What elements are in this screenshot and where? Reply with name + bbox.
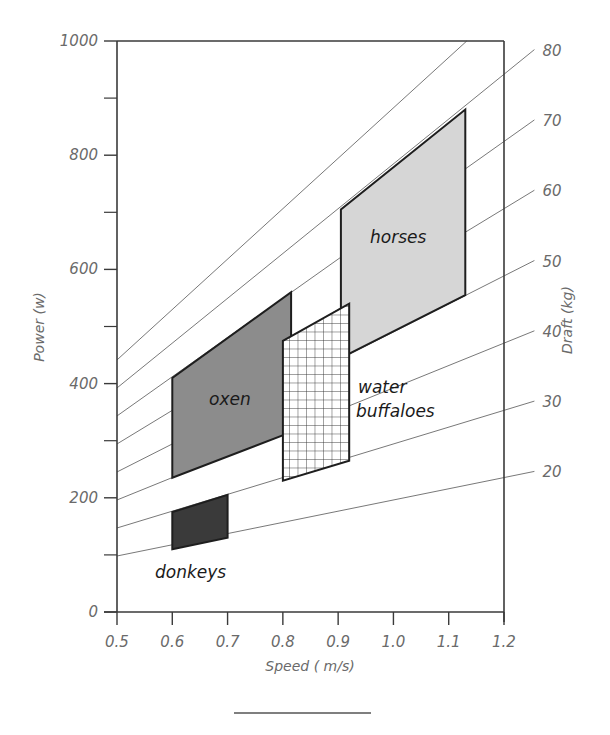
region-donkeys: [172, 495, 227, 549]
draft-label-60: 60: [542, 182, 561, 200]
x-axis-title: Speed ( m/s): [265, 658, 354, 674]
y2-axis-title: Draft (kg): [559, 286, 575, 354]
label-buffaloes: buffaloes: [356, 401, 435, 421]
x-tick-label-1.2: 1.2: [492, 633, 516, 651]
y-tick-label-800: 800: [69, 146, 98, 164]
region-oxen: [172, 292, 291, 478]
x-tick-label-0.6: 0.6: [160, 633, 184, 651]
x-tick-label-0.5: 0.5: [105, 633, 129, 651]
x-tick-label-1.1: 1.1: [437, 633, 461, 651]
y-axis-title: Power (w): [31, 292, 47, 362]
draft-axis-labels: 20304050607080: [542, 42, 561, 482]
draft-label-30: 30: [542, 393, 561, 411]
region-water-buffaloes: [283, 304, 349, 481]
x-tick-label-1.0: 1.0: [381, 633, 405, 651]
draft-label-80: 80: [542, 42, 561, 60]
x-tick-label-0.7: 0.7: [216, 633, 240, 651]
label-water: water: [358, 377, 407, 397]
draft-label-50: 50: [542, 253, 561, 271]
y-axis-ticks: 02004006008001000: [60, 32, 117, 621]
x-axis-ticks: 0.50.60.70.80.91.01.11.2: [105, 612, 516, 651]
label-oxen: oxen: [209, 389, 251, 409]
power-speed-chart: 02004006008001000 0.50.60.70.80.91.01.11…: [0, 0, 610, 735]
y-tick-label-600: 600: [69, 260, 98, 278]
x-tick-label-0.8: 0.8: [271, 633, 295, 651]
draft-label-70: 70: [542, 112, 561, 130]
y-tick-label-200: 200: [69, 489, 98, 507]
y-tick-label-1000: 1000: [60, 32, 98, 50]
label-horses: horses: [370, 227, 426, 247]
y-tick-label-0: 0: [88, 603, 98, 621]
draft-lines: [117, 41, 534, 556]
label-donkeys: donkeys: [155, 562, 226, 582]
y-tick-label-400: 400: [69, 375, 98, 393]
draft-label-20: 20: [542, 463, 561, 481]
x-tick-label-0.9: 0.9: [326, 633, 350, 651]
